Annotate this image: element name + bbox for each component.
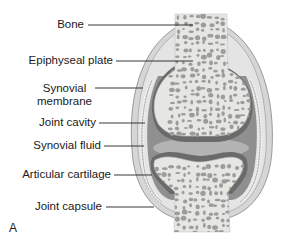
trabecular-pore	[246, 24, 252, 27]
trabecular-pore	[226, 219, 231, 223]
trabecular-pore	[183, 15, 186, 20]
trabecular-pore	[208, 93, 213, 97]
trabecular-pore	[188, 192, 193, 195]
trabecular-pore	[217, 94, 220, 98]
trabecular-pore	[207, 225, 211, 229]
trabecular-pore	[236, 30, 239, 33]
trabecular-pore	[227, 164, 231, 168]
trabecular-pore	[196, 172, 201, 176]
trabecular-pore	[238, 217, 243, 219]
trabecular-pore	[193, 219, 198, 221]
trabecular-pore	[225, 179, 230, 182]
trabecular-pore	[189, 48, 192, 52]
trabecular-pore	[183, 200, 187, 204]
trabecular-pore	[235, 218, 240, 220]
trabecular-pore	[221, 95, 226, 100]
trabecular-pore	[189, 184, 192, 188]
trabecular-pore	[182, 209, 188, 214]
trabecular-pore	[227, 132, 230, 136]
trabecular-pore	[170, 16, 173, 19]
trabecular-pore	[230, 124, 234, 129]
trabecular-pore	[189, 124, 193, 129]
trabecular-pore	[215, 35, 220, 40]
trabecular-pore	[222, 213, 225, 215]
trabecular-pore	[235, 81, 238, 83]
trabecular-pore	[169, 232, 172, 235]
trabecular-pore	[239, 114, 245, 116]
trabecular-pore	[168, 128, 173, 131]
trabecular-pore	[168, 179, 171, 181]
trabecular-pore	[177, 15, 180, 20]
trabecular-pore	[215, 16, 220, 19]
trabecular-pore	[216, 49, 219, 51]
trabecular-pore	[162, 167, 168, 170]
trabecular-pore	[207, 178, 210, 181]
trabecular-pore	[201, 206, 205, 208]
trabecular-pore	[174, 198, 178, 201]
trabecular-pore	[189, 226, 194, 229]
label-synovial-membrane-line1: Synovial	[37, 82, 92, 95]
trabecular-pore	[249, 42, 252, 45]
trabecular-pore	[181, 233, 186, 236]
trabecular-pore	[207, 52, 212, 57]
trabecular-pore	[210, 28, 213, 30]
trabecular-pore	[188, 219, 191, 223]
trabecular-pore	[216, 21, 220, 24]
trabecular-pore	[223, 86, 226, 91]
trabecular-pore	[194, 22, 199, 24]
trabecular-pore	[197, 73, 200, 76]
trabecular-pore	[181, 133, 186, 136]
trabecular-pore	[193, 230, 198, 233]
trabecular-pore	[200, 87, 205, 89]
trabecular-pore	[203, 223, 206, 228]
trabecular-pore	[169, 94, 174, 96]
trabecular-pore	[155, 224, 160, 229]
trabecular-pore	[175, 126, 179, 130]
trabecular-pore	[201, 132, 207, 135]
trabecular-pore	[201, 29, 204, 32]
trabecular-pore	[212, 225, 218, 230]
trabecular-pore	[220, 55, 225, 57]
trabecular-pore	[208, 67, 212, 70]
trabecular-pore	[191, 43, 194, 46]
trabecular-pore	[210, 23, 215, 27]
trabecular-pore	[232, 173, 236, 177]
trabecular-pore	[175, 43, 180, 46]
trabecular-pore	[163, 231, 166, 236]
label-synovial-fluid: Synovial fluid	[33, 139, 101, 152]
trabecular-pore	[238, 225, 244, 227]
trabecular-pore	[163, 218, 168, 221]
trabecular-pore	[195, 92, 199, 96]
trabecular-pore	[183, 206, 186, 210]
trabecular-pore	[240, 18, 244, 21]
trabecular-pore	[181, 178, 184, 182]
trabecular-pore	[168, 165, 174, 168]
trabecular-pore	[228, 107, 231, 110]
trabecular-pore	[210, 107, 213, 112]
trabecular-pore	[174, 187, 179, 190]
trabecular-pore	[235, 166, 239, 170]
trabecular-pore	[215, 108, 221, 111]
label-bone: Bone	[57, 18, 84, 31]
trabecular-pore	[189, 31, 194, 33]
trabecular-pore	[175, 88, 180, 92]
trabecular-pore	[207, 16, 213, 19]
trabecular-pore	[215, 88, 220, 90]
trabecular-pore	[202, 127, 205, 129]
trabecular-pore	[195, 35, 200, 40]
trabecular-pore	[183, 56, 187, 58]
trabecular-pore	[220, 22, 225, 26]
trabecular-pore	[174, 212, 180, 216]
trabecular-pore	[176, 121, 179, 126]
trabecular-pore	[240, 122, 245, 125]
trabecular-pore	[188, 56, 192, 58]
trabecular-pore	[189, 62, 193, 66]
trabecular-pore	[221, 219, 225, 223]
trabecular-pore	[196, 177, 199, 182]
trabecular-pore	[201, 219, 204, 222]
trabecular-pore	[221, 200, 227, 203]
trabecular-pore	[169, 132, 174, 136]
trabecular-pore	[195, 211, 200, 216]
trabecular-pore	[236, 21, 239, 26]
trabecular-pore	[240, 101, 244, 105]
